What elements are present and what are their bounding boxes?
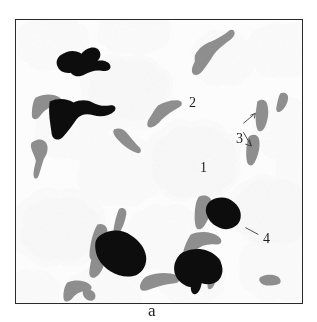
figure-label-4: 4 <box>263 232 270 246</box>
micrograph-canvas <box>16 20 302 303</box>
figure-label-2: 2 <box>189 96 196 110</box>
caption-strip: a <box>0 305 317 322</box>
figure-label-1: 1 <box>200 161 207 175</box>
figure-label-3: 3 <box>236 132 243 146</box>
caption-partial-glyph: a <box>148 305 156 319</box>
micrograph-panel: 1 2 3 4 <box>15 19 303 304</box>
figure-root: 1 2 3 4 a <box>0 0 317 322</box>
